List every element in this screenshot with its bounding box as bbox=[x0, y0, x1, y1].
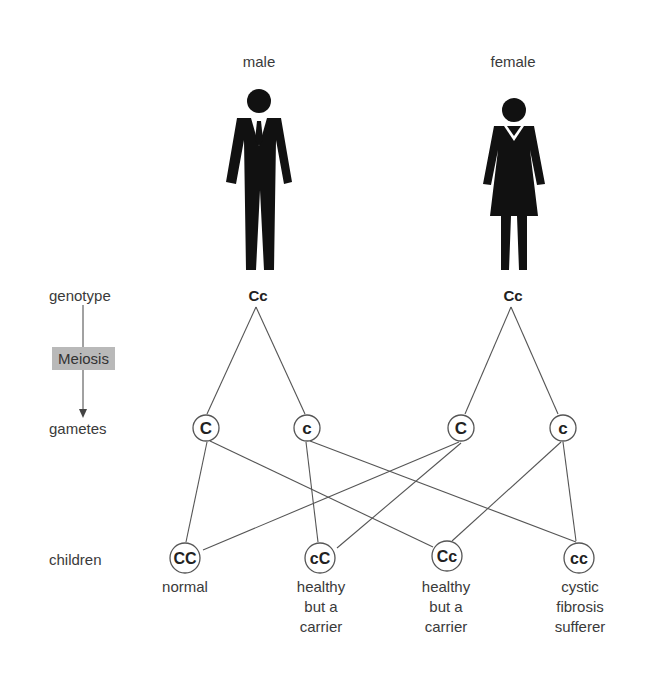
female-genotype: Cc bbox=[503, 287, 522, 304]
child-genotype: cc bbox=[570, 550, 588, 567]
gamete-label: C bbox=[200, 419, 212, 438]
child-description: normal bbox=[162, 577, 208, 597]
child-description: healthy but a carrier bbox=[297, 577, 345, 637]
child-genotype: CC bbox=[173, 550, 197, 567]
child-description: cystic fibrosis sufferer bbox=[555, 577, 606, 637]
genotype-row-label: genotype bbox=[49, 287, 111, 304]
man-icon bbox=[226, 89, 292, 270]
inheritance-diagram: C c C c CC cC Cc cc male female Cc Cc ge… bbox=[0, 0, 671, 686]
gamete-label: c bbox=[558, 419, 567, 438]
child-genotype: Cc bbox=[437, 548, 458, 565]
children-row-label: children bbox=[49, 551, 102, 568]
child-genotype: cC bbox=[310, 550, 331, 567]
gametes-row-label: gametes bbox=[49, 420, 107, 437]
gamete-label: c bbox=[302, 419, 311, 438]
male-genotype: Cc bbox=[248, 287, 267, 304]
male-label: male bbox=[243, 53, 276, 70]
child-description: healthy but a carrier bbox=[422, 577, 470, 637]
gamete-label: C bbox=[455, 419, 467, 438]
meiosis-label: Meiosis bbox=[52, 347, 115, 370]
woman-icon bbox=[483, 98, 545, 270]
female-label: female bbox=[490, 53, 535, 70]
